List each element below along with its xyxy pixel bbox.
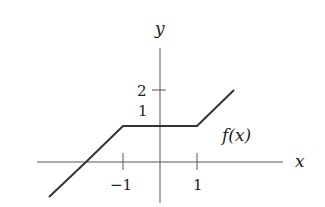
- y-tick-label-1: 1: [138, 102, 148, 120]
- y-tick-label-2: 2: [137, 82, 147, 100]
- x-tick-label-neg1: −1: [110, 176, 132, 194]
- x-axis-label: x: [295, 151, 305, 171]
- y-axis-label: y: [154, 18, 165, 38]
- x-tick-label-pos1: 1: [193, 176, 203, 194]
- function-graph: y x −1 1 2 1 f(x): [0, 0, 325, 207]
- function-label: f(x): [220, 125, 251, 145]
